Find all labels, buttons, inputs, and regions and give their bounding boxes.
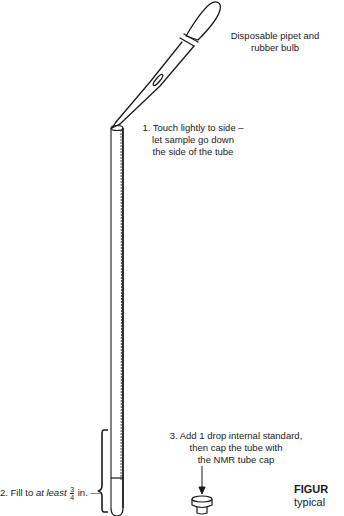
figure-caption: FIGUR typical xyxy=(294,483,328,509)
step-2-prefix: 2. Fill to xyxy=(0,487,36,498)
figure-caption-text: typical xyxy=(294,496,325,508)
step-3-line-2: then cap the tube with xyxy=(166,442,306,454)
figure-label: FIGUR xyxy=(294,483,328,496)
step-2-label: 2. Fill to at least 3 4 in. — xyxy=(0,486,100,501)
down-arrow-icon xyxy=(199,466,205,494)
step-2-emphasis: at least xyxy=(36,487,67,498)
step-3-line-1: 3. Add 1 drop internal standard, xyxy=(166,430,306,442)
step-2-suffix: in. xyxy=(75,487,88,498)
fraction-numerator: 3 xyxy=(70,486,74,494)
pointer-dash: — xyxy=(90,487,100,498)
pipet-label: Disposable pipet and rubber bulb xyxy=(220,30,330,54)
step-3-line-3: the NMR tube cap xyxy=(166,454,306,466)
pipet-label-line-1: Disposable pipet and xyxy=(220,30,330,42)
three-quarter-fraction: 3 4 xyxy=(70,486,74,501)
nmr-tube-cap-icon xyxy=(192,496,212,514)
fraction-denominator: 4 xyxy=(70,494,74,501)
pipet-icon xyxy=(112,2,220,128)
step-1-line-3: the side of the tube xyxy=(138,146,248,158)
step-1-line-1: 1. Touch lightly to side – xyxy=(138,122,248,134)
step-1-label: 1. Touch lightly to side – let sample go… xyxy=(138,122,248,158)
step-3-label: 3. Add 1 drop internal standard, then ca… xyxy=(166,430,306,466)
nmr-tube-icon xyxy=(111,126,123,516)
pipet-label-line-2: rubber bulb xyxy=(220,42,330,54)
step-1-line-2: let sample go down xyxy=(138,134,248,146)
